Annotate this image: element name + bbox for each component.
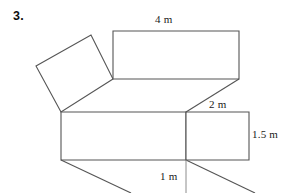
tilted-quadrilateral bbox=[36, 35, 113, 112]
net-diagram-svg bbox=[0, 0, 300, 193]
dimension-label-slant: 2 m bbox=[209, 98, 226, 110]
question-number: 3. bbox=[13, 10, 24, 22]
top-rectangle bbox=[113, 31, 239, 79]
bottom-left-fold-line bbox=[61, 160, 131, 193]
dimension-label-bottom: 1 m bbox=[160, 170, 177, 182]
figure-container: 3. 4 m 2 m 1.5 m 1 m bbox=[0, 0, 300, 193]
dimension-label-top: 4 m bbox=[155, 13, 172, 25]
bottom-right-fold-line bbox=[186, 160, 255, 193]
dimension-label-right-height: 1.5 m bbox=[252, 128, 278, 140]
lower-left-rectangle bbox=[61, 112, 186, 160]
lower-right-square bbox=[186, 112, 249, 160]
